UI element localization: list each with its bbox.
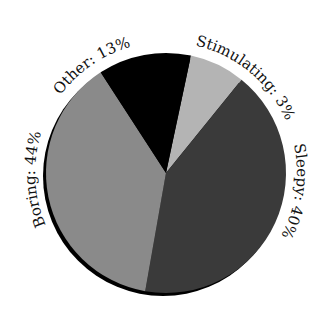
pie-chart: Other: 13% Stimulating: 3% Sleepy: 40% B… [0, 0, 334, 318]
pie-slices [46, 53, 286, 293]
